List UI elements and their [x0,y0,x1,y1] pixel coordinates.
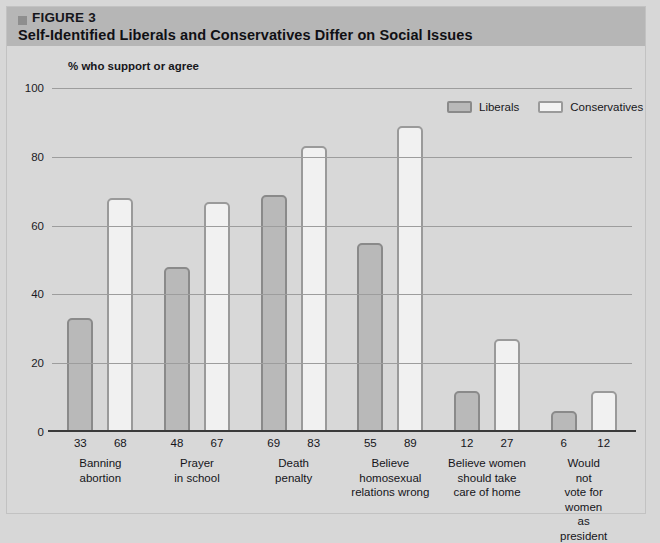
bar-value-label: 67 [211,437,224,449]
gridline [52,226,632,227]
y-axis-tick-label: 20 [31,357,44,369]
bar-value-label: 6 [560,437,566,449]
gridline [52,294,632,295]
bar-liberals [551,411,577,432]
figure-title: Self-Identified Liberals and Conservativ… [18,27,473,43]
category-label: Would not vote for women as president [559,456,607,543]
bar-value-label: 69 [267,437,280,449]
axis-subtitle: % who support or agree [68,60,199,72]
bar-liberals [164,267,190,432]
bar-conservatives [301,146,327,432]
bar-conservatives [397,126,423,432]
value-labels-row: 33684867698355891227612 [52,437,632,453]
y-axis-tick-label: 80 [31,151,44,163]
bar-liberals [67,318,93,432]
plot-area: 020406080100 [52,88,632,432]
y-axis-tick-label: 100 [25,82,44,94]
figure-number-label: FIGURE 3 [32,10,96,25]
bar-value-label: 89 [404,437,417,449]
figure-header-band: FIGURE 3 Self-Identified Liberals and Co… [7,7,645,46]
bar-value-label: 48 [171,437,184,449]
category-label: Believe women should take care of home [448,456,526,500]
category-label: Believe homosexual relations wrong [351,456,429,500]
category-label: Death penalty [275,456,312,485]
y-axis-tick-label: 40 [31,288,44,300]
category-label: Banning abortion [79,456,121,485]
bar-value-label: 33 [74,437,87,449]
gridline [52,88,632,89]
y-axis-tick-label: 60 [31,220,44,232]
bar-liberals [261,195,287,432]
bar-liberals [357,243,383,432]
gridline [52,432,632,433]
bar-value-label: 12 [461,437,474,449]
bar-value-label: 55 [364,437,377,449]
bar-conservatives [591,391,617,432]
y-axis-tick-label: 0 [38,426,44,438]
square-bullet-icon [18,16,27,25]
category-label: Prayer in school [174,456,219,485]
bar-value-label: 27 [501,437,514,449]
bars-layer [52,88,632,432]
gridline [52,157,632,158]
bar-conservatives [107,198,133,432]
category-labels-row: Banning abortionPrayer in schoolDeath pe… [52,456,632,522]
bar-liberals [454,391,480,432]
bar-conservatives [494,339,520,432]
bar-value-label: 68 [114,437,127,449]
bar-value-label: 12 [597,437,610,449]
bar-conservatives [204,202,230,432]
bar-value-label: 83 [307,437,320,449]
gridline [52,363,632,364]
